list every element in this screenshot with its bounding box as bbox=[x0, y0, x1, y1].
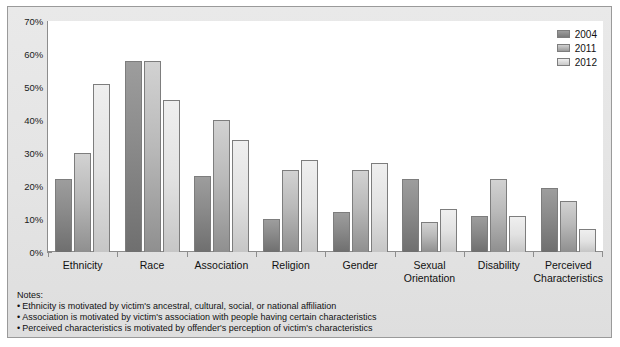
legend-swatch-icon bbox=[557, 44, 570, 52]
x-label-gender: Gender bbox=[325, 256, 394, 286]
bar-2004[interactable] bbox=[125, 61, 142, 252]
y-axis: 70% 60% 50% 40% 30% 20% 10% 0% bbox=[18, 21, 47, 252]
x-label-association: Association bbox=[187, 256, 256, 286]
x-label-sexual-orientation: Sexual Orientation bbox=[395, 256, 464, 286]
x-label-line1: Perceived bbox=[534, 259, 603, 272]
bar-2004[interactable] bbox=[333, 212, 350, 252]
bar-group-disability bbox=[464, 21, 533, 252]
bar-2004[interactable] bbox=[55, 179, 72, 252]
bar-2011[interactable] bbox=[352, 170, 369, 253]
bar-2012[interactable] bbox=[509, 216, 526, 252]
bar-2011[interactable] bbox=[490, 179, 507, 252]
x-label-line1: Ethnicity bbox=[48, 259, 117, 272]
bar-group-gender bbox=[326, 21, 395, 252]
bar-2012[interactable] bbox=[371, 163, 388, 252]
x-label-race: Race bbox=[117, 256, 186, 286]
bar-group-ethnicity bbox=[48, 21, 117, 252]
bar-2011[interactable] bbox=[421, 222, 438, 252]
bullet-icon: • bbox=[17, 323, 20, 333]
bar-2004[interactable] bbox=[263, 219, 280, 252]
bar-group-sexual-orientation bbox=[395, 21, 464, 252]
bar-2004[interactable] bbox=[402, 179, 419, 252]
bar-groups bbox=[48, 21, 603, 252]
legend-swatch-icon bbox=[557, 30, 570, 38]
bar-2011[interactable] bbox=[213, 120, 230, 252]
y-tick-label: 30% bbox=[24, 148, 43, 159]
x-label-line1: Association bbox=[187, 259, 256, 272]
note-item: •Ethnicity is motivated by victim's ance… bbox=[17, 301, 577, 312]
x-axis-labels: Ethnicity Race Association Religion Gend… bbox=[48, 256, 603, 286]
note-text: Perceived characteristics is motivated b… bbox=[22, 323, 372, 333]
note-text: Ethnicity is motivated by victim's ances… bbox=[22, 301, 336, 311]
notes-title: Notes: bbox=[17, 290, 577, 301]
screenshot-root: 70% 60% 50% 40% 30% 20% 10% 0% bbox=[0, 0, 620, 347]
x-label-disability: Disability bbox=[464, 256, 533, 286]
bar-2012[interactable] bbox=[579, 229, 596, 252]
x-label-line1: Gender bbox=[325, 259, 394, 272]
bar-2011[interactable] bbox=[144, 61, 161, 252]
bar-2004[interactable] bbox=[194, 176, 211, 252]
y-tick-label: 40% bbox=[24, 115, 43, 126]
x-label-line1: Sexual bbox=[395, 259, 464, 272]
legend-item-2011[interactable]: 2011 bbox=[557, 42, 597, 54]
legend-item-2012[interactable]: 2012 bbox=[557, 56, 597, 68]
y-tick-label: 0% bbox=[29, 247, 43, 258]
legend-item-2004[interactable]: 2004 bbox=[557, 28, 597, 40]
y-tick-label: 10% bbox=[24, 214, 43, 225]
bar-2012[interactable] bbox=[232, 140, 249, 252]
bar-2011[interactable] bbox=[74, 153, 91, 252]
bar-group-association bbox=[187, 21, 256, 252]
bar-group-race bbox=[117, 21, 186, 252]
y-tick-label: 70% bbox=[24, 16, 43, 27]
notes-block: Notes: •Ethnicity is motivated by victim… bbox=[17, 290, 577, 334]
bar-2012[interactable] bbox=[440, 209, 457, 252]
bar-2011[interactable] bbox=[560, 201, 577, 252]
x-label-line1: Disability bbox=[464, 259, 533, 272]
bar-2004[interactable] bbox=[471, 216, 488, 252]
bar-group-religion bbox=[256, 21, 325, 252]
x-label-religion: Religion bbox=[256, 256, 325, 286]
legend-item-label: 2012 bbox=[575, 57, 597, 68]
x-label-line1: Religion bbox=[256, 259, 325, 272]
legend-item-label: 2011 bbox=[575, 43, 597, 54]
bar-2012[interactable] bbox=[301, 160, 318, 252]
legend-item-label: 2004 bbox=[575, 29, 597, 40]
x-label-ethnicity: Ethnicity bbox=[48, 256, 117, 286]
chart-legend: 2004 2011 2012 bbox=[557, 28, 597, 68]
bar-2011[interactable] bbox=[282, 170, 299, 253]
x-label-perceived-characteristics: Perceived Characteristics bbox=[534, 256, 603, 286]
note-text: Association is motivated by victim's ass… bbox=[22, 312, 376, 322]
note-item: •Perceived characteristics is motivated … bbox=[17, 323, 577, 334]
note-item: •Association is motivated by victim's as… bbox=[17, 312, 577, 323]
bar-2004[interactable] bbox=[541, 188, 558, 252]
bar-2012[interactable] bbox=[93, 84, 110, 252]
bar-2012[interactable] bbox=[163, 100, 180, 252]
y-tick-label: 50% bbox=[24, 82, 43, 93]
x-label-line2: Characteristics bbox=[534, 272, 603, 285]
chart-card: 70% 60% 50% 40% 30% 20% 10% 0% bbox=[7, 6, 612, 338]
bullet-icon: • bbox=[17, 312, 20, 322]
x-label-line1: Race bbox=[117, 259, 186, 272]
bullet-icon: • bbox=[17, 301, 20, 311]
y-tick-label: 60% bbox=[24, 49, 43, 60]
y-tick-label: 20% bbox=[24, 181, 43, 192]
legend-swatch-icon bbox=[557, 58, 570, 66]
x-label-line2: Orientation bbox=[395, 272, 464, 285]
